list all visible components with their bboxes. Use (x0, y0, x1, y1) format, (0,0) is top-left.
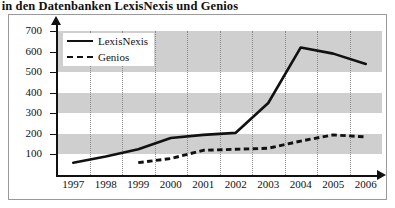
y-axis-tick-label: 100 (26, 147, 43, 159)
y-axis-tick-label: 400 (26, 86, 43, 98)
x-axis (56, 175, 378, 177)
solid-line-icon (67, 40, 93, 42)
y-axis (56, 24, 58, 176)
x-axis-tick-label: 2003 (251, 178, 285, 190)
y-axis-tick-label: 200 (26, 127, 43, 139)
y-axis-tick-label: 300 (26, 106, 43, 118)
x-axis-tick-label: 1997 (56, 178, 90, 190)
page-title: keit in den Datenbanken LexisNexis und G… (0, 0, 395, 14)
legend-item-lexisnexis: LexisNexis (67, 35, 148, 47)
y-axis-tick-label: 600 (26, 45, 43, 57)
y-axis-arrow-icon (51, 16, 61, 25)
x-axis-tick-label: 2004 (284, 178, 318, 190)
x-axis-tick-label: 2001 (186, 178, 220, 190)
x-axis-tick-label: 1999 (121, 178, 155, 190)
x-axis-tick-label: 2005 (316, 178, 350, 190)
x-axis-tick-label: 2000 (154, 178, 188, 190)
dashed-line-icon (67, 56, 93, 58)
x-axis-tick-label: 2006 (349, 178, 383, 190)
chart-legend: LexisNexis Genios (63, 33, 154, 66)
x-axis-tick-label: 2002 (219, 178, 253, 190)
y-axis-tick-label: 500 (26, 65, 43, 77)
legend-label-genios: Genios (98, 51, 129, 63)
y-axis-tick-label: 700 (26, 24, 43, 36)
legend-item-genios: Genios (67, 51, 148, 63)
chart-page: keit in den Datenbanken LexisNexis und G… (0, 0, 395, 208)
legend-label-lexisnexis: LexisNexis (98, 35, 148, 47)
x-axis-labels: 1997199819992000200120022003200420052006 (46, 178, 386, 196)
y-axis-labels: 100200300400500600700 (0, 0, 52, 186)
x-axis-tick-label: 1998 (89, 178, 123, 190)
